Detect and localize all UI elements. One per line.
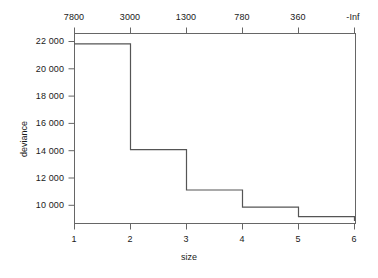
top-axis-tick-label-5: 360 xyxy=(290,12,305,22)
y-axis-tick-label-12000: 12 000 xyxy=(0,173,64,183)
y-axis-tick-label-14000: 14 000 xyxy=(0,146,64,156)
y-axis-tick-label-16000: 16 000 xyxy=(0,118,64,128)
top-axis-tick-label-4: 780 xyxy=(234,12,249,22)
x-axis-tick-label-1: 1 xyxy=(71,234,76,244)
x-axis-title: size xyxy=(0,252,378,262)
top-axis-tick-label-3: 1300 xyxy=(176,12,196,22)
y-axis-tick-label-18000: 18 000 xyxy=(0,91,64,101)
top-axis-tick-label-6: -Inf xyxy=(346,12,359,22)
deviance-vs-size-chart: 7800 3000 1300 780 360 -Inf 22 000 20 00… xyxy=(0,0,378,278)
y-axis-tick-label-10000: 10 000 xyxy=(0,200,64,210)
top-axis-ticks xyxy=(75,28,355,34)
y-axis-tick-label-20000: 20 000 xyxy=(0,64,64,74)
y-axis-ticks xyxy=(69,42,75,206)
y-axis-tick-label-22000: 22 000 xyxy=(0,36,64,46)
x-axis-tick-label-4: 4 xyxy=(239,234,244,244)
y-axis-title: deviance xyxy=(19,121,29,157)
deviance-step-line xyxy=(75,44,355,221)
plot-frame xyxy=(75,34,356,224)
x-axis-tick-label-6: 6 xyxy=(351,234,356,244)
top-axis-tick-label-1: 7800 xyxy=(64,12,84,22)
x-axis-tick-label-3: 3 xyxy=(183,234,188,244)
x-axis-tick-label-2: 2 xyxy=(127,234,132,244)
top-axis-tick-label-2: 3000 xyxy=(120,12,140,22)
x-axis-tick-label-5: 5 xyxy=(295,234,300,244)
bottom-axis-ticks xyxy=(75,224,355,230)
